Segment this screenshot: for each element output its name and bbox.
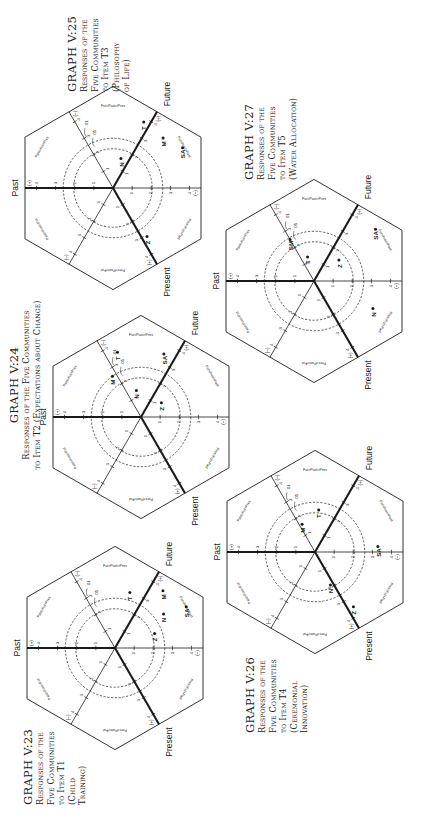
future-axis-positive (113, 112, 157, 188)
plus-marker: (+) (55, 409, 60, 415)
tick-label: 4 (76, 117, 81, 120)
tick-label: 3 (196, 420, 201, 423)
tick-label: 4 (36, 641, 41, 644)
tick-label: 4 (144, 255, 149, 258)
tick-label: 3 (143, 139, 148, 142)
tick-label: 3 (255, 545, 260, 548)
data-point-label: T (304, 261, 311, 265)
data-point-label: SA (372, 231, 379, 240)
hexagon-graph-V23: 1234(+)1234(–)Past1234(+)1234(–)Future12… (12, 541, 203, 756)
graph-subtitle-line: to Item T4 (278, 657, 289, 733)
minus-marker: (–) (101, 339, 106, 345)
sector-label: Past>Fut>Pres (36, 595, 52, 618)
origin-point (314, 551, 316, 553)
tick-label: 1 (91, 181, 96, 184)
minus-marker: (–) (193, 190, 198, 196)
minus-marker: (–) (75, 570, 80, 576)
minus-marker: (–) (92, 483, 97, 489)
figure-page: 1234(+)1234(–)Past1234(+)1234(–)Future12… (0, 0, 424, 823)
tick-label: 1 (124, 429, 129, 432)
plus-marker: (+) (156, 115, 161, 121)
tick-label: 1 (152, 401, 157, 404)
tick-label: 4 (78, 577, 83, 580)
origin-point (112, 187, 114, 189)
circle-05-label: .05 (94, 589, 99, 596)
data-point-z (160, 401, 163, 404)
future-axis-positive (141, 341, 185, 417)
tick-label: 2 (336, 520, 341, 523)
data-point-label: N (370, 312, 377, 317)
graph-subtitle-line: of Life) (121, 16, 132, 92)
tick-label: 1 (119, 410, 124, 413)
circle-01-label: .01 (285, 213, 290, 220)
tick-label: 1 (292, 274, 297, 277)
data-point-n (135, 389, 138, 392)
graph-subtitle-line: (Water Allocation) (288, 98, 299, 180)
data-point-m (301, 523, 304, 526)
graph-subtitle-line: Responses of the (79, 16, 90, 92)
tick-label: 4 (277, 210, 282, 213)
data-point-sa (185, 605, 188, 608)
circle-05-label: .05 (293, 222, 298, 229)
past-axis-label: Past (10, 179, 20, 197)
data-point-label: N (133, 394, 140, 399)
graph-title-main: GRAPH V:24 (8, 250, 21, 520)
tick-label: 1 (298, 564, 303, 567)
data-point-label: M (109, 380, 116, 385)
graph-subtitle-line: Responses of the Five Communities (21, 250, 32, 520)
tick-label: 1 (96, 200, 101, 203)
tick-label: 1 (124, 172, 129, 175)
graph-subtitle-line: to Item T5 (277, 98, 288, 180)
tick-label: 4 (96, 479, 101, 482)
tick-label: 1 (129, 191, 134, 194)
origin-point (313, 280, 315, 282)
tick-label: 3 (336, 602, 341, 605)
sector-label: Fut>Pres>Past (378, 500, 393, 523)
sector-label: Pres>Past>Fut (101, 268, 125, 272)
tick-label: 1 (131, 651, 136, 654)
sector-label: Past>Pres>Fut (62, 447, 77, 470)
graph-subtitle-line: Training) (77, 729, 88, 805)
data-point-n (329, 583, 332, 586)
sector-label: Fut>Past>Pres (302, 197, 326, 201)
sector-label: Pres>Fut>Past (178, 678, 193, 701)
tick-label: 3 (145, 599, 150, 602)
tick-label: 1 (105, 167, 110, 170)
tick-label: 2 (136, 616, 141, 619)
tick-label: 4 (236, 545, 241, 548)
circle-01-label: .01 (86, 580, 91, 587)
past-axis-label: Past (211, 272, 221, 290)
sector-label: Fut>Past>Pres (129, 333, 153, 337)
plus-marker: (+) (27, 180, 32, 186)
sector-label: Pres>Fut>Past (204, 447, 219, 470)
future-axis-label: Future (363, 174, 373, 199)
tick-label: 3 (345, 503, 350, 506)
plus-marker: (+) (175, 488, 180, 494)
minus-marker: (–) (275, 474, 280, 480)
graph-title-v24: GRAPH V:24 Responses of the Five Communi… (8, 250, 42, 520)
data-point-sm (289, 238, 292, 241)
circle-01-label: .01 (84, 120, 89, 127)
plus-marker: (+) (229, 544, 234, 550)
graph-title-main: GRAPH V:26 (244, 657, 257, 733)
sector-label: Fut>Past>Pres (303, 468, 327, 472)
tick-label: 1 (143, 434, 148, 437)
plus-marker: (+) (348, 352, 353, 358)
plus-marker: (+) (228, 273, 233, 279)
data-point-label: N (160, 617, 167, 622)
tick-label: 4 (172, 484, 177, 487)
tick-label: 2 (115, 446, 120, 449)
data-point-label: N (118, 162, 125, 167)
tick-label: 2 (134, 156, 139, 159)
graph-subtitle-line: to Item T1 (56, 729, 67, 805)
graph-title-main: GRAPH V:23 (22, 729, 35, 805)
tick-label: 3 (81, 410, 86, 413)
data-point-m (111, 375, 114, 378)
sector-label: Fut>Pres>Past (377, 229, 392, 252)
graph-subtitle-line: (Child (67, 729, 78, 805)
data-point-label: M (160, 141, 167, 146)
tick-label: 2 (349, 284, 354, 287)
sector-label: Past>Pres>Fut (235, 311, 250, 334)
tick-label: 1 (98, 660, 103, 663)
tick-label: 4 (269, 343, 274, 346)
